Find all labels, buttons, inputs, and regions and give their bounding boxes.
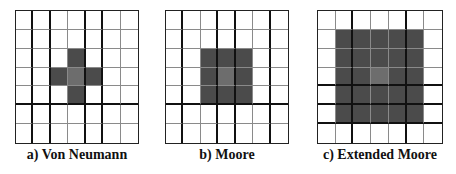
grid-cell [33, 86, 50, 105]
grid-cell [68, 11, 85, 30]
neighbor-cell [201, 68, 218, 87]
grid-cell [336, 124, 354, 143]
grid-cell [86, 11, 103, 30]
neighbor-cell [336, 30, 354, 49]
neighbor-cell [407, 68, 425, 87]
neighbor-cell [336, 68, 354, 87]
grid-cell [68, 105, 85, 124]
grid-cell [33, 49, 50, 68]
grid-cell [33, 11, 50, 30]
grid-cell [271, 105, 288, 124]
grid-cell [183, 105, 200, 124]
grid-cell [318, 11, 336, 30]
grid-cell [424, 124, 442, 143]
neighbor-cell [389, 105, 407, 124]
neighbor-cell [236, 68, 253, 87]
grid-cell [253, 30, 270, 49]
grid-cell [86, 105, 103, 124]
grid-cell [271, 11, 288, 30]
neighbor-cell [371, 49, 389, 68]
grid-cell [86, 49, 103, 68]
neighbor-cell [407, 49, 425, 68]
neighbor-cell [371, 105, 389, 124]
grid-cell [318, 105, 336, 124]
neighbor-cell [389, 30, 407, 49]
grid-cell [336, 11, 354, 30]
grid-cell [218, 124, 235, 143]
grid-cell [103, 11, 120, 30]
grid-cell [271, 68, 288, 87]
grid-cell [121, 30, 138, 49]
grid-cell [121, 11, 138, 30]
grid-cell [201, 105, 218, 124]
grid-cell [166, 68, 183, 87]
grid-cell [424, 30, 442, 49]
grid-cell [103, 105, 120, 124]
neighbor-cell [336, 86, 354, 105]
grid-cell [33, 105, 50, 124]
grid-cell [51, 11, 68, 30]
grid-cell [16, 68, 33, 87]
grid-cell [253, 49, 270, 68]
grid-cell [16, 30, 33, 49]
grid-cell [166, 105, 183, 124]
grid-cell [183, 68, 200, 87]
grid-moore [165, 10, 289, 144]
grid-cell [33, 68, 50, 87]
grid-cell [236, 11, 253, 30]
grid-cell [183, 30, 200, 49]
grid-cell [183, 49, 200, 68]
grid-cell [318, 30, 336, 49]
neighbor-cell [407, 86, 425, 105]
grid-cell [201, 30, 218, 49]
grid-cell [318, 124, 336, 143]
grid-cell [51, 49, 68, 68]
neighbor-cell [389, 49, 407, 68]
grid-cell [51, 30, 68, 49]
grid-cell [236, 124, 253, 143]
grid-cell [103, 124, 120, 143]
grid-cell [371, 11, 389, 30]
grid-cell [271, 124, 288, 143]
grid-cell [121, 105, 138, 124]
caption-extended-moore: c) Extended Moore [317, 147, 443, 163]
grid-cell [318, 68, 336, 87]
grid-cell [183, 86, 200, 105]
grid-cell [166, 49, 183, 68]
neighbor-cell [407, 105, 425, 124]
grid-cell [318, 86, 336, 105]
neighbor-cell [51, 68, 68, 87]
grid-cell [253, 11, 270, 30]
grid-cell [16, 86, 33, 105]
grid-von-neumann [15, 10, 139, 144]
caption-von-neumann: a) Von Neumann [15, 147, 139, 163]
grid-cell [271, 30, 288, 49]
grid-cell [121, 49, 138, 68]
neighbor-cell [389, 86, 407, 105]
center-cell [371, 68, 389, 87]
neighbor-cell [353, 86, 371, 105]
neighbor-cell [218, 49, 235, 68]
grid-extended-moore [317, 10, 443, 144]
grid-cell [103, 86, 120, 105]
grid-cell [51, 124, 68, 143]
grid-cell [389, 124, 407, 143]
grid-cell [121, 124, 138, 143]
neighbor-cell [68, 49, 85, 68]
grid-cell [86, 30, 103, 49]
neighbor-cell [353, 49, 371, 68]
grid-cell [86, 86, 103, 105]
grid-cell [183, 11, 200, 30]
grid-cell [166, 86, 183, 105]
grid-cell [16, 49, 33, 68]
grid-cell [253, 86, 270, 105]
grid-cell [33, 30, 50, 49]
grid-cell [218, 30, 235, 49]
grid-cell [33, 124, 50, 143]
grid-cell [16, 105, 33, 124]
grid-cell [371, 124, 389, 143]
grid-cell [166, 124, 183, 143]
grid-cell [253, 68, 270, 87]
caption-moore: b) Moore [165, 147, 289, 163]
neighbor-cell [236, 49, 253, 68]
